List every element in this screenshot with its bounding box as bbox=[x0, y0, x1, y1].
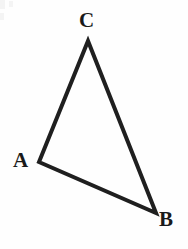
triangle-figure: C A B bbox=[0, 0, 188, 249]
vertex-label-c: C bbox=[79, 10, 94, 31]
vertex-label-b: B bbox=[159, 209, 173, 230]
vertex-label-a: A bbox=[13, 150, 28, 171]
triangle-outline bbox=[39, 41, 156, 213]
